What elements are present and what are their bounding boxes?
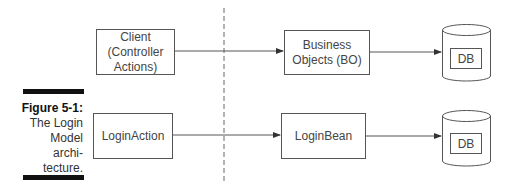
- architecture-diagram: [0, 0, 514, 188]
- login-bean-label: LoginBean: [281, 113, 366, 159]
- client-label-line: (Controller: [107, 45, 163, 60]
- client-label-line: Actions): [114, 60, 157, 75]
- login-action-label: LoginAction: [93, 113, 173, 159]
- client-box-label: Client (Controller Actions): [96, 29, 175, 75]
- bo-label-line: Business: [303, 38, 352, 53]
- bo-label-line: Objects (BO): [292, 53, 361, 68]
- db-label: DB: [450, 133, 482, 154]
- db-label: DB: [450, 48, 482, 69]
- business-objects-label: Business Objects (BO): [284, 30, 370, 75]
- client-label-line: Client: [120, 30, 151, 45]
